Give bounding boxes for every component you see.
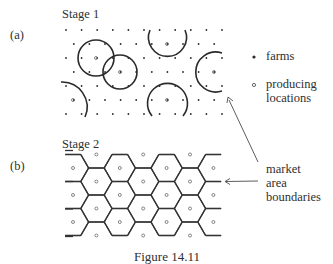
annotation-arrows — [225, 97, 258, 185]
stage2-hexagon-boundaries — [65, 151, 221, 237]
stage1-producing-locations — [72, 43, 216, 102]
arrow-to-stage2 — [226, 181, 258, 182]
market-arc — [196, 52, 222, 92]
legend-farm-dot-icon — [252, 55, 255, 58]
market-circle — [78, 40, 114, 76]
arrow-to-stage1 — [229, 100, 258, 162]
legend-producing-location-icon — [252, 83, 255, 86]
stage1-market-circles — [61, 30, 222, 117]
